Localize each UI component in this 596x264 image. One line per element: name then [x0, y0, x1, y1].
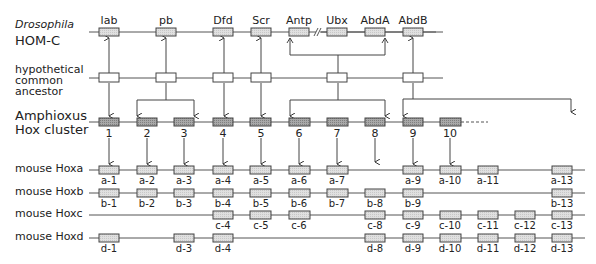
- hoxa-gene-label: a-11: [468, 175, 508, 186]
- hoxa-gene-label: a-10: [430, 175, 470, 186]
- hoxc-gene-label: c-4: [203, 220, 243, 231]
- gene-label-lab: lab: [89, 14, 129, 27]
- hoxb-gene-label: b-3: [164, 198, 204, 209]
- hoxa-gene-label: a-1: [89, 175, 129, 186]
- amphioxus-gene-7: 7: [327, 127, 347, 140]
- gene-label-pb: pb: [146, 14, 186, 27]
- hoxa-gene-label: a-7: [317, 175, 357, 186]
- gene-label-antp: Antp: [279, 14, 319, 27]
- hoxa-gene-label: a-4: [203, 175, 243, 186]
- gene-box-scr: [251, 28, 271, 36]
- hoxb-gene-label: b-5: [241, 198, 281, 209]
- hoxd-gene-label: d-11: [468, 243, 508, 254]
- hoxa-gene-label: a-3: [164, 175, 204, 186]
- hoxd-gene-label: d-13: [542, 243, 582, 254]
- gene-box-lab: [99, 28, 119, 36]
- hoxb-gene-label: b-9: [393, 198, 433, 209]
- hoxd-gene-label: d-1: [89, 243, 129, 254]
- hoxc-gene-label: c-10: [430, 220, 470, 231]
- hoxa-gene-label: a-6: [279, 175, 319, 186]
- hoxb-gene-label: b-6: [279, 198, 319, 209]
- hoxc-gene-label: c-9: [393, 220, 433, 231]
- amphioxus-gene-2: 2: [137, 127, 157, 140]
- gene-box-abdb: [403, 28, 423, 36]
- hoxd-gene-label: d-4: [203, 243, 243, 254]
- hoxb-gene-label: b-1: [89, 198, 129, 209]
- hoxd-gene-label: d-12: [505, 243, 545, 254]
- hoxd-gene-label: d-8: [355, 243, 395, 254]
- hoxb-gene-label: b-7: [317, 198, 357, 209]
- hoxb-gene-label: b-8: [355, 198, 395, 209]
- gene-label-abda: AbdA: [355, 14, 395, 27]
- hoxc-gene-label: c-5: [241, 220, 281, 231]
- gene-label-abdb: AbdB: [393, 14, 433, 27]
- amphioxus-gene-10: 10: [440, 127, 460, 140]
- amphioxus-gene-1: 1: [99, 127, 119, 140]
- hoxb-gene-label: b-4: [203, 198, 243, 209]
- gene-label-ubx: Ubx: [317, 14, 357, 27]
- hoxb-gene-label: b-13: [542, 198, 582, 209]
- gene-box-pb: [156, 28, 176, 36]
- hoxc-gene-label: c-6: [279, 220, 319, 231]
- amphioxus-gene-6: 6: [289, 127, 309, 140]
- hoxa-gene-label: a-9: [393, 175, 433, 186]
- hoxc-gene-label: c-8: [355, 220, 395, 231]
- amphioxus-gene-4: 4: [213, 127, 233, 140]
- amphioxus-gene-3: 3: [174, 127, 194, 140]
- amphioxus-gene-9: 9: [403, 127, 423, 140]
- hoxa-gene-label: a-13: [542, 175, 582, 186]
- hoxd-gene-label: d-9: [393, 243, 433, 254]
- gene-label-dfd: Dfd: [203, 14, 243, 27]
- hoxa-gene-label: a-2: [127, 175, 167, 186]
- gene-box-abda: [365, 28, 385, 36]
- hoxc-gene-label: c-11: [468, 220, 508, 231]
- gene-box-antp: [289, 28, 309, 36]
- hoxd-gene-label: d-10: [430, 243, 470, 254]
- amphioxus-gene-5: 5: [251, 127, 271, 140]
- hoxd-gene-label: d-3: [164, 243, 204, 254]
- hoxb-gene-label: b-2: [127, 198, 167, 209]
- gene-label-scr: Scr: [241, 14, 281, 27]
- hoxc-gene-label: c-12: [505, 220, 545, 231]
- hoxa-gene-label: a-5: [241, 175, 281, 186]
- gene-box-ubx: [327, 28, 347, 36]
- gene-box-dfd: [213, 28, 233, 36]
- amphioxus-gene-8: 8: [365, 127, 385, 140]
- hoxc-gene-label: c-13: [542, 220, 582, 231]
